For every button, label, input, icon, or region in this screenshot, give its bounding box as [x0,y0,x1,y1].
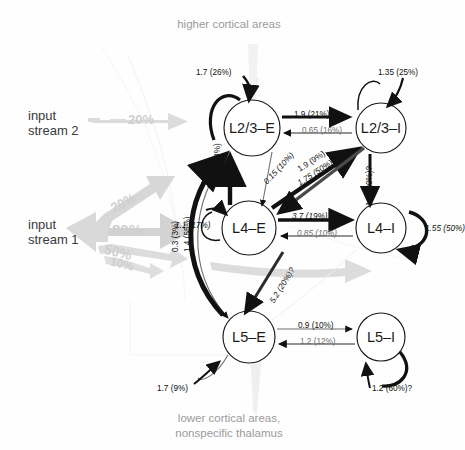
node-label-l23i: L2/3–I [361,120,401,136]
weight-l5e-to-l23e: 1.4 (55%) [183,217,192,253]
weight-self-l23e: 1.7 (26%) [196,68,232,77]
weight-l4i-to-l4e: 0.85 (10%) [297,229,337,238]
weight-l23e-to-l23i: 1.9 (21%) [294,110,330,119]
node-label-l4e: L4–E [232,220,266,236]
weight-self-l4e: 1.1 (17%) [175,221,211,230]
input-stream-2-line2: stream 2 [28,123,79,138]
input-stream-2-label: input stream 2 [28,108,79,138]
weight-l4e-to-l4i: 3.7 (19%) [292,212,328,221]
weight-l23i-to-l23e: 0.65 (16%) [302,126,342,135]
weight-l23i-to-l4i: 1.5 (20%)? [365,166,374,206]
node-label-l5i: L5–I [367,329,395,345]
input-stream-1-line1: input [28,217,79,232]
weight-l23e-to-l5e: 0.3 (3%) [171,221,180,252]
weight-self-l23i: 1.35 (25%) [378,68,418,77]
node-label-l23e: L2/3–E [229,120,275,136]
input-branch-pct-80: 80% [112,221,142,238]
input-stream-1-label: input stream 1 [28,217,79,247]
label-lower-cortical-areas: lower cortical areas, [0,412,458,424]
weight-self-l4i: 1.55 (50%) [425,224,465,233]
label-nonspecific-thalamus: nonspecific thalamus [0,427,458,439]
weight-l4e-to-l23e: 4 (28%) [213,143,222,172]
label-higher-cortical-areas: higher cortical areas [0,18,458,30]
weight-l5e-to-l5i: 0.9 (10%) [298,321,334,330]
input-stream-1-line2: stream 1 [28,232,79,247]
weight-self-l5e: 1.7 (9%) [157,384,188,393]
input-stream-2-pct: 20% [128,112,154,127]
weight-l5i-to-l5e: 1.2 (12%) [300,337,336,346]
weight-self-l5i: 1.2 (60%)? [372,384,412,393]
node-label-l5e: L5–E [232,329,266,345]
node-label-l4i: L4–I [367,220,395,236]
input-stream-2-line1: input [28,108,79,123]
